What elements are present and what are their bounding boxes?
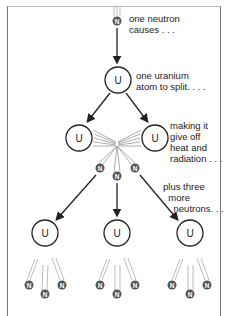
uranium-atom-top: U [105,67,131,93]
svg-text:N: N [60,282,65,289]
label-three-neutrons: plus three more neutrons. . . [163,181,224,214]
svg-text:N: N [170,282,175,289]
neutron-cluster-right: N N N [168,258,212,299]
svg-text:U: U [151,133,158,144]
svg-text:U: U [41,228,48,239]
svg-text:N: N [205,282,210,289]
svg-text:N: N [133,282,138,289]
svg-text:N: N [27,282,32,289]
svg-text:N: N [188,291,193,298]
fragment-right: U [142,125,168,151]
svg-text:N: N [133,165,138,172]
label-one-neutron: one neutron causes . . . [129,13,180,35]
arrow-next-left [57,175,96,219]
uranium-atom-gen2-right: U [177,220,203,246]
arrow-split-left [88,93,110,121]
label-one-uranium: one uranium atom to split. . . . [136,70,206,92]
svg-text:N: N [115,18,120,25]
svg-text:N: N [115,291,120,298]
fragment-left: U [66,125,92,151]
incoming-neutron: N [113,5,122,26]
svg-text:U: U [186,228,193,239]
released-neutron-right: N [131,164,140,173]
label-heat-radiation: making it give off heat and radiation . … [170,120,222,164]
svg-text:N: N [43,291,48,298]
arrow-split-right [126,93,147,121]
uranium-atom-gen2-left: U [32,220,58,246]
released-neutron-left: N [96,164,105,173]
svg-text:N: N [115,173,120,180]
released-neutron-center: N [113,172,122,181]
svg-text:U: U [114,75,121,86]
svg-text:U: U [113,228,120,239]
svg-text:N: N [98,282,103,289]
neutron-cluster-center: N N N [96,258,140,299]
neutron-cluster-left: N N N [25,258,67,299]
svg-text:N: N [98,165,103,172]
svg-text:U: U [75,133,82,144]
uranium-atom-gen2-center: U [104,220,130,246]
